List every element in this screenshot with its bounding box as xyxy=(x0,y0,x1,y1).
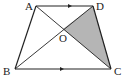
parallel-arrow-ad-icon xyxy=(68,4,72,8)
label-b: B xyxy=(3,65,10,77)
parallel-arrow-bc-icon xyxy=(60,67,64,71)
label-a: A xyxy=(25,0,33,12)
trapezoid-diagram: A D O B C xyxy=(0,0,127,83)
label-c: C xyxy=(114,65,121,77)
label-o: O xyxy=(59,32,67,44)
shaded-triangle-ocd xyxy=(63,6,111,69)
label-d: D xyxy=(96,0,104,12)
side-ab xyxy=(15,6,36,69)
